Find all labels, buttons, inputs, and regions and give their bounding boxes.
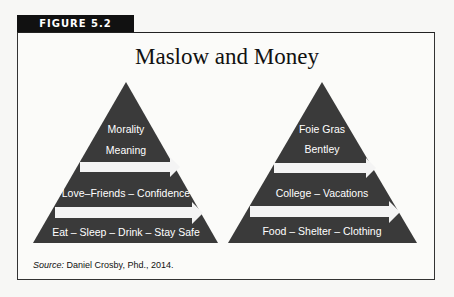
- source-label: Source:: [33, 260, 64, 270]
- label-top-1: Morality: [108, 123, 146, 135]
- label-top-2: Bentley: [304, 143, 340, 155]
- label-top-2: Meaning: [106, 144, 146, 156]
- label-top-1: Foie Gras: [299, 123, 345, 135]
- source-text: Daniel Crosby, Phd., 2014.: [64, 260, 173, 270]
- pyramid-maslow: Morality Meaning Love–Friends – Confiden…: [33, 82, 218, 243]
- pyramids-diagram: Morality Meaning Love–Friends – Confiden…: [0, 0, 454, 297]
- pyramid-shape: [228, 82, 417, 243]
- label-bottom: Eat – Sleep – Drink – Stay Safe: [52, 226, 200, 238]
- label-middle: Love–Friends – Confidence: [62, 187, 191, 199]
- pyramid-money: Foie Gras Bentley College – Vacations Fo…: [228, 82, 417, 243]
- label-bottom: Food – Shelter – Clothing: [262, 225, 381, 237]
- source-note: Source: Daniel Crosby, Phd., 2014.: [33, 260, 173, 270]
- label-middle: College – Vacations: [276, 187, 369, 199]
